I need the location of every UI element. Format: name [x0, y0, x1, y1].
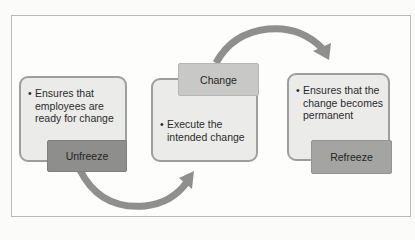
bullet-icon: •	[160, 118, 167, 143]
unfreeze-description: • Ensures that employees are ready for c…	[28, 87, 114, 125]
bullet-icon: •	[28, 87, 35, 125]
change-description: • Execute the intended change	[160, 118, 245, 143]
bullet-icon: •	[296, 84, 303, 122]
refreeze-label: Refreeze	[311, 140, 392, 174]
unfreeze-label: Unfreeze	[47, 140, 127, 172]
change-label: Change	[178, 63, 259, 96]
arrow-change-to-refreeze-icon	[216, 29, 331, 63]
arrow-unfreeze-to-change-icon	[80, 170, 194, 206]
refreeze-description: • Ensures that the change becomes perman…	[296, 84, 383, 122]
